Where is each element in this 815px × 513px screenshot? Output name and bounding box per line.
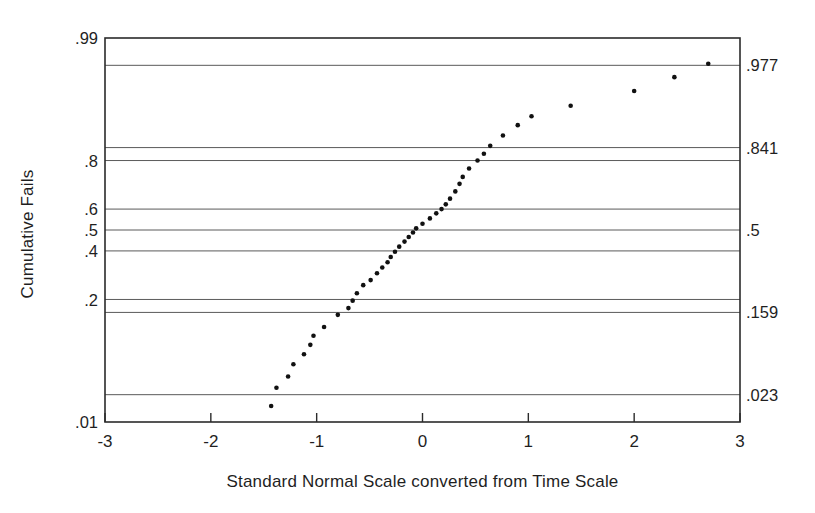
data-point <box>443 202 448 207</box>
data-point <box>439 207 444 212</box>
y-tick-label-right: .977 <box>746 56 778 75</box>
data-point <box>482 152 487 157</box>
data-point <box>385 260 390 265</box>
data-point <box>706 61 711 66</box>
data-point <box>457 182 462 187</box>
x-tick-label: 2 <box>629 432 638 452</box>
data-point <box>308 343 313 348</box>
y-tick-label-left: .99 <box>75 29 98 48</box>
data-point <box>322 325 327 330</box>
x-tick-label: 1 <box>524 432 533 452</box>
y-tick-label-left: .5 <box>84 221 98 240</box>
data-point <box>311 333 316 338</box>
y-tick-label-left: .2 <box>84 290 98 309</box>
data-point <box>501 133 506 138</box>
data-point <box>350 298 355 303</box>
data-point <box>411 230 416 235</box>
data-point <box>286 374 291 379</box>
data-point <box>336 313 341 318</box>
data-point <box>368 278 373 283</box>
data-point <box>406 235 411 240</box>
data-point <box>428 216 433 221</box>
x-axis-title: Standard Normal Scale converted from Tim… <box>105 472 740 492</box>
data-point <box>291 362 296 367</box>
y-axis-title: Cumulative Fails <box>18 124 38 344</box>
data-point <box>274 385 279 390</box>
data-point <box>420 221 425 226</box>
data-point <box>568 103 573 108</box>
data-point <box>380 265 385 270</box>
x-axis-tick-labels: -3-2-10123 <box>0 432 815 462</box>
y-tick-label-left: .6 <box>84 200 98 219</box>
x-tick-label: -1 <box>309 432 324 452</box>
data-point <box>388 255 393 260</box>
x-tick-label: -3 <box>97 432 112 452</box>
y-tick-label-right: .841 <box>746 138 778 157</box>
data-point <box>529 114 534 119</box>
data-point <box>269 404 274 409</box>
y-tick-label-left: .01 <box>75 413 98 432</box>
data-point <box>402 239 407 244</box>
data-point <box>488 144 493 149</box>
data-point <box>467 166 472 171</box>
data-point <box>672 75 677 80</box>
data-point <box>475 158 480 163</box>
y-tick-label-left: .8 <box>84 151 98 170</box>
data-point <box>355 291 360 296</box>
x-tick-label: 0 <box>418 432 427 452</box>
x-tick-label: -2 <box>203 432 218 452</box>
data-point <box>302 352 307 357</box>
data-point <box>393 249 398 254</box>
data-point <box>448 196 453 201</box>
y-tick-label-right: .159 <box>746 303 778 322</box>
data-point <box>515 123 520 128</box>
y-tick-label-right: .023 <box>746 385 778 404</box>
data-point <box>460 175 465 180</box>
x-tick-label: 3 <box>735 432 744 452</box>
data-point <box>361 283 366 288</box>
data-point <box>434 211 439 216</box>
data-point <box>453 189 458 194</box>
data-point <box>397 244 402 249</box>
data-point <box>375 271 380 276</box>
y-tick-label-right: .5 <box>746 221 760 240</box>
data-point <box>414 226 419 231</box>
data-point <box>632 89 637 94</box>
data-point <box>346 306 351 311</box>
y-tick-label-left: .4 <box>84 241 98 260</box>
probability-plot-figure: Cumulative Fails Standard Normal Scale c… <box>0 0 815 513</box>
